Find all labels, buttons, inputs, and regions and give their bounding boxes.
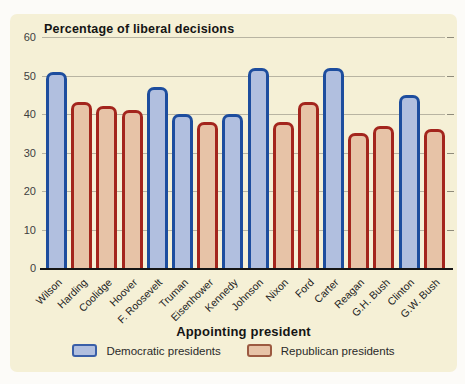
bar-ford [298, 102, 319, 268]
right-tick-20 [447, 191, 454, 192]
legend-item-democratic: Democratic presidents [72, 344, 220, 357]
legend-item-republican: Republican presidents [247, 344, 395, 357]
republican-swatch-icon [247, 344, 272, 357]
right-tick-60 [447, 37, 454, 38]
chart-title: Percentage of liberal decisions [44, 22, 234, 36]
y-tick-label-60: 60 [6, 31, 36, 43]
y-tick-label-50: 50 [6, 70, 36, 82]
bar-johnson [248, 68, 269, 268]
bar-wilson [46, 72, 67, 268]
bar-harding [71, 102, 92, 268]
right-tick-10 [447, 230, 454, 231]
y-tick-label-30: 30 [6, 147, 36, 159]
y-tick-label-40: 40 [6, 108, 36, 120]
bar-carter [323, 68, 344, 268]
legend-label-republican: Republican presidents [281, 345, 395, 357]
bar-g-h-bush [373, 126, 394, 268]
bar-f-roosevelt [147, 87, 168, 268]
right-tick-30 [447, 153, 454, 154]
bar-reagan [348, 133, 369, 268]
bar-kennedy [222, 114, 243, 268]
bar-coolidge [96, 106, 117, 268]
democratic-swatch-icon [72, 344, 97, 357]
gridline-50 [42, 76, 445, 77]
right-tick-50 [447, 76, 454, 77]
bar-nixon [273, 122, 294, 268]
bar-g-w-bush [424, 129, 445, 268]
plot-area: Appointing president 0102030405060Wilson… [42, 37, 445, 268]
bar-truman [172, 114, 193, 268]
gridline-60 [42, 37, 445, 38]
right-tick-40 [447, 114, 454, 115]
y-tick-label-10: 10 [6, 224, 36, 236]
bar-eisenhower [197, 122, 218, 268]
legend: Democratic presidents Republican preside… [10, 344, 457, 357]
x-axis-title: Appointing president [42, 324, 445, 339]
y-tick-label-20: 20 [6, 185, 36, 197]
y-tick-label-0: 0 [6, 262, 36, 274]
bar-clinton [399, 95, 420, 268]
chart-panel: Percentage of liberal decisions Appointi… [10, 14, 457, 372]
x-tick-label-nixon: Nixon [263, 276, 290, 303]
legend-label-democratic: Democratic presidents [106, 345, 220, 357]
bar-hoover [122, 110, 143, 268]
